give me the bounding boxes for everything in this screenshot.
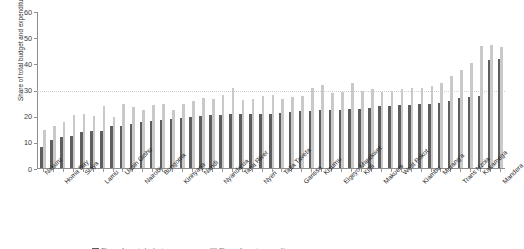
bar-group — [187, 12, 197, 168]
bar — [391, 91, 394, 168]
bar — [272, 95, 275, 168]
x-axis-label: Nyeri — [262, 169, 278, 185]
bar-group — [296, 12, 306, 168]
bar — [291, 97, 294, 168]
x-axis-label: Lamu — [103, 168, 120, 185]
bar-group — [336, 12, 346, 168]
bar-group — [366, 12, 376, 168]
y-tick-mark — [34, 64, 37, 65]
bar-group — [346, 12, 356, 168]
bar — [341, 92, 344, 168]
bar-group — [475, 12, 485, 168]
y-tick-label: 40 — [24, 60, 32, 69]
bar-group — [157, 12, 167, 168]
bar-group — [147, 12, 157, 168]
bar — [480, 46, 483, 168]
bar-group — [426, 12, 436, 168]
bar-group — [167, 12, 177, 168]
bar-group — [247, 12, 257, 168]
bar-group — [436, 12, 446, 168]
bar-group — [98, 12, 108, 168]
bar — [351, 83, 354, 168]
bar-group — [207, 12, 217, 168]
y-tick-label: 30 — [24, 86, 32, 95]
bar-group — [137, 12, 147, 168]
bar — [202, 98, 205, 168]
y-tick-mark — [34, 38, 37, 39]
bar — [222, 95, 225, 168]
chart-legend: Share of county budgetShare of county ex… — [0, 239, 511, 249]
bar-group — [177, 12, 187, 168]
y-tick-label: 50 — [24, 34, 32, 43]
bar — [152, 105, 155, 168]
bar — [431, 86, 434, 168]
bar-group — [197, 12, 207, 168]
bar — [122, 104, 125, 168]
bar-group — [485, 12, 495, 168]
bar-group — [316, 12, 326, 168]
bar-group — [267, 12, 277, 168]
bar — [73, 115, 76, 168]
bar-group — [58, 12, 68, 168]
y-tick-label: 20 — [24, 112, 32, 121]
y-tick-mark — [34, 143, 37, 144]
bar-group — [38, 12, 48, 168]
bar-group — [237, 12, 247, 168]
bar-group — [465, 12, 475, 168]
y-tick-label: 0 — [28, 165, 32, 174]
bar — [311, 88, 314, 168]
y-tick-label: 10 — [24, 138, 32, 147]
bar — [103, 106, 106, 168]
bar — [321, 85, 324, 168]
bar — [470, 63, 473, 168]
bar — [440, 83, 443, 168]
bar — [162, 104, 165, 168]
bar-group — [217, 12, 227, 168]
bar — [63, 122, 66, 168]
bar-group — [416, 12, 426, 168]
bar-group — [48, 12, 58, 168]
bar-group — [495, 12, 505, 168]
bar — [401, 89, 404, 168]
bar — [113, 117, 116, 168]
bar — [232, 88, 235, 168]
bar — [331, 93, 334, 168]
y-tick-label: 60 — [24, 8, 32, 17]
y-tick-mark — [34, 169, 37, 170]
bar-group — [386, 12, 396, 168]
bar-group — [118, 12, 128, 168]
bar — [43, 130, 46, 168]
bar-group — [68, 12, 78, 168]
bar-group — [445, 12, 455, 168]
bar — [381, 92, 384, 168]
y-tick-mark — [34, 12, 37, 13]
bar — [361, 91, 364, 168]
bar-group — [108, 12, 118, 168]
bar-group — [306, 12, 316, 168]
bar-groups — [38, 12, 505, 168]
y-axis-title: Share of total budget and expenditure (%… — [17, 0, 24, 122]
bar-group — [277, 12, 287, 168]
y-tick-mark — [34, 117, 37, 118]
bar-group — [406, 12, 416, 168]
bar-group — [78, 12, 88, 168]
plot-area: 0102030405060 — [37, 12, 505, 169]
bar-group — [286, 12, 296, 168]
bar — [450, 76, 453, 168]
bar-group — [257, 12, 267, 168]
bar-group — [227, 12, 237, 168]
bar — [212, 99, 215, 168]
bar-group — [326, 12, 336, 168]
bar-group — [455, 12, 465, 168]
bar — [490, 45, 493, 169]
bar-group — [356, 12, 366, 168]
bar — [411, 88, 414, 168]
bar-group — [127, 12, 137, 168]
bar — [192, 101, 195, 169]
bar — [281, 99, 284, 168]
x-axis-labels: NakuruHoma BaySiayaLamuUasin GishuNairob… — [38, 171, 506, 231]
bar-group — [88, 12, 98, 168]
bar-group — [396, 12, 406, 168]
